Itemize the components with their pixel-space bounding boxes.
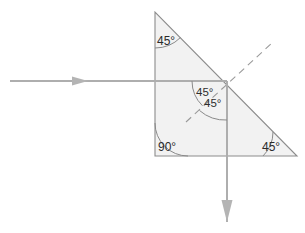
- top-angle-label: 45°: [157, 34, 175, 48]
- optics-diagram-figure: 45° 90° 45° 45° 45°: [0, 0, 305, 233]
- diagram-canvas: 45° 90° 45° 45° 45°: [0, 0, 305, 233]
- bottom-right-angle-label: 45°: [262, 140, 280, 154]
- incident-ray-arrowhead-icon: [72, 77, 88, 86]
- refraction-angle-label: 45°: [204, 97, 221, 109]
- right-angle-corner-label: 90°: [158, 140, 176, 154]
- transmitted-ray-arrowhead-icon: [222, 200, 233, 222]
